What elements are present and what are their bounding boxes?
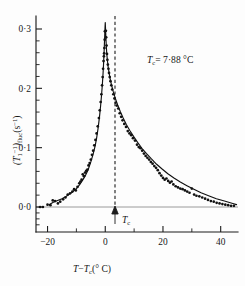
data-point [113,97,116,100]
data-point [165,177,168,180]
data-point [51,199,54,202]
data-point [96,125,99,128]
data-point [62,198,65,201]
data-point [155,166,158,169]
data-point [102,60,105,63]
data-point [132,137,135,140]
data-point [148,158,151,161]
data-point [141,149,144,152]
x-title-units: (° C) [92,263,111,275]
x-tick-label: 0 [103,237,108,247]
data-point [106,59,109,62]
data-point [114,101,117,104]
data-point [46,203,49,206]
data-point [193,193,196,196]
data-point [156,169,159,172]
data-point [143,152,146,155]
data-point [207,199,210,202]
data-point [115,104,118,107]
data-point [105,44,108,47]
data-point [83,175,86,178]
data-point [71,190,74,193]
x-axis-tick-labels: −2002040 [40,237,225,247]
data-point [101,84,104,87]
data-point [172,183,175,186]
data-point [105,36,108,39]
data-point [107,63,110,66]
data-point [93,144,96,147]
data-point [103,55,106,58]
data-point [89,158,92,161]
data-point [233,204,236,207]
data-point [188,191,191,194]
tc-axis-arrow-marker [112,206,118,224]
data-point [106,53,109,56]
data-point [218,202,221,205]
data-point [215,202,218,205]
data-point [69,192,72,195]
y-title-sup-one: −1 [11,146,18,153]
data-point [101,76,104,79]
data-point [160,174,163,177]
data-point [105,29,108,32]
data-point [108,76,111,79]
data-point [190,187,193,190]
data-point [49,204,52,207]
data-point [151,162,154,165]
data-point [134,139,137,142]
data-point [227,204,230,207]
data-point [64,196,67,199]
data-point [221,203,224,206]
data-point [125,126,128,129]
data-point [87,164,90,167]
data-point [95,132,98,135]
data-point [98,117,101,120]
data-point [158,172,161,175]
data-point [117,107,120,110]
y-axis-title: (T1−1)fluc(s−1) [11,116,24,165]
data-point [139,147,142,150]
x-axis-title: T−Tc(° C) [73,263,111,275]
data-point [91,153,94,156]
data-point [102,67,105,70]
data-point [94,139,97,142]
figure-container: 0·30·20·10·0 −2002040 Tc Tc= 7·88 °C (T1… [0,0,245,286]
x-tick-label: 40 [216,237,226,247]
data-point [108,72,111,75]
x-axis-ticks [48,226,221,232]
data-point [103,47,106,50]
data-point [39,206,42,209]
data-point [174,185,177,188]
y-tick-label: 0·3 [19,24,32,34]
chart-canvas: 0·30·20·10·0 −2002040 Tc Tc= 7·88 °C (T1… [0,0,245,286]
data-point [118,112,121,115]
data-point [74,189,77,192]
data-point [130,134,133,137]
fit-curve [49,22,237,204]
x-tick-label: 20 [158,237,168,247]
data-point [121,119,124,122]
data-point [170,180,173,183]
data-point [126,130,129,133]
data-point [92,149,95,152]
data-point [66,193,69,196]
data-point [186,190,189,193]
data-point [123,123,126,126]
data-point [80,178,83,181]
data-point [109,80,112,83]
data-point [212,200,215,203]
data-point [54,200,57,203]
data-point [88,162,91,165]
data-point [181,188,184,191]
data-point [76,185,79,188]
data-point-group [39,29,236,208]
data-point [103,38,106,41]
data-point [110,84,113,87]
tc-marker-label: Tc [122,214,130,226]
data-point [201,196,204,199]
data-point [99,101,102,104]
data-point [59,200,62,203]
y-tick-label: 0·0 [19,202,32,212]
data-point [224,203,227,206]
data-point [184,189,187,192]
